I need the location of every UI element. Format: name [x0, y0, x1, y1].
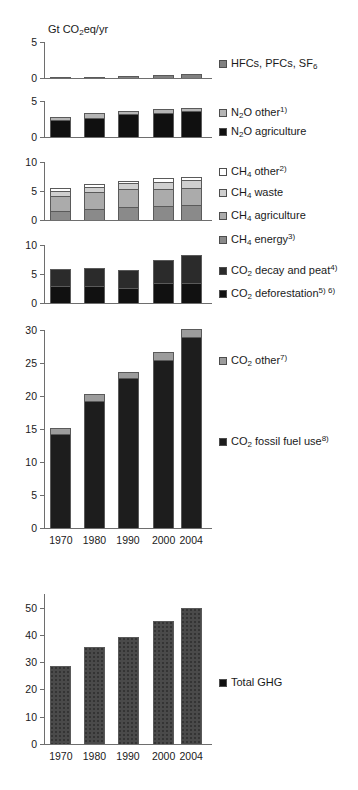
bar-1970 — [50, 42, 71, 78]
legend-label: CO2 decay and peat4) — [231, 262, 337, 280]
y-tick-label: 0 — [4, 73, 37, 84]
bar-2000 — [153, 594, 174, 744]
legend-label: CO2 other7) — [231, 352, 287, 370]
y-tick-label: 0 — [4, 523, 37, 534]
bar-segment — [50, 211, 71, 220]
bar-segment — [118, 183, 139, 189]
x-axis-line — [44, 528, 212, 529]
y-tick — [40, 162, 44, 163]
y-tick-label: 0 — [4, 739, 37, 750]
legend-label: HFCs, PFCs, SF6 — [231, 57, 317, 73]
y-tick-label: 5 — [4, 37, 37, 48]
bar-segment — [153, 75, 174, 78]
legend-label: CH4 waste — [231, 186, 283, 202]
y-tick — [40, 662, 44, 663]
y-tick — [40, 330, 44, 331]
bar-segment — [50, 188, 71, 190]
bar-segment — [153, 189, 174, 206]
x-tick-label-2004: 2004 — [172, 535, 211, 546]
bar-segment — [153, 360, 174, 528]
bar-2000 — [153, 245, 174, 303]
y-tick — [40, 191, 44, 192]
x-tick-label-2004: 2004 — [172, 751, 211, 762]
bar-2004 — [181, 42, 202, 78]
legend-item-ch4-agriculture: CH4 agriculture — [219, 209, 306, 225]
legend-label: N2O agriculture — [231, 125, 306, 141]
y-tick — [40, 245, 44, 246]
y-tick-label: 0 — [4, 215, 37, 226]
y-axis-line — [44, 101, 45, 137]
y-tick — [40, 495, 44, 496]
y-tick-label: 40 — [4, 630, 37, 641]
y-tick — [40, 101, 44, 102]
bar-1990 — [118, 42, 139, 78]
bar-1970 — [50, 162, 71, 220]
y-tick — [40, 303, 44, 304]
bar-segment — [153, 182, 174, 190]
legend-swatch-icon — [219, 168, 227, 176]
bar-segment — [84, 187, 105, 193]
legend-item-co2-deforestation-5-6: CO2 deforestation5) 6) — [219, 285, 335, 303]
y-tick-label: 30 — [4, 325, 37, 336]
bar-2000 — [153, 330, 174, 528]
bar-segment — [84, 401, 105, 528]
bar-segment — [153, 206, 174, 220]
bar-segment — [84, 286, 105, 303]
y-tick-label: 10 — [4, 157, 37, 168]
bar-segment — [118, 76, 139, 78]
bar-segment — [181, 74, 202, 78]
bar-2004 — [181, 245, 202, 303]
y-tick-label: 10 — [4, 240, 37, 251]
legend-label: CO2 deforestation5) 6) — [231, 285, 335, 303]
legend-swatch-icon — [219, 438, 227, 446]
legend-item-n2o-agriculture: N2O agriculture — [219, 125, 306, 141]
y-axis-line — [44, 42, 45, 78]
y-tick — [40, 608, 44, 609]
legend-swatch-icon — [219, 267, 227, 275]
bar-1980 — [84, 162, 105, 220]
bar-segment — [118, 637, 139, 744]
y-tick-label: 5 — [4, 490, 37, 501]
y-axis-line — [44, 162, 45, 220]
bar-1970 — [50, 594, 71, 744]
panel-co2-land: 0510 — [44, 245, 212, 329]
legend-swatch-icon — [219, 357, 227, 365]
bar-segment — [181, 329, 202, 337]
legend-label: N2O other1) — [231, 104, 287, 122]
y-tick-label: 25 — [4, 358, 37, 369]
bar-segment — [118, 111, 139, 114]
x-axis-line — [44, 303, 212, 304]
y-tick-label: 30 — [4, 657, 37, 668]
bar-segment — [153, 260, 174, 284]
bar-segment — [181, 337, 202, 528]
y-tick-label: 50 — [4, 603, 37, 614]
legend-label: Total GHG — [231, 676, 282, 688]
ghg-emissions-figure: Gt CO2eq/yr 0505051005100510152025301970… — [0, 0, 358, 790]
legend-item-total-ghg: Total GHG — [219, 676, 282, 688]
x-tick-label-1990: 1990 — [109, 535, 148, 546]
bar-segment — [118, 288, 139, 303]
bar-1970 — [50, 330, 71, 528]
y-tick — [40, 78, 44, 79]
bar-segment — [153, 178, 174, 181]
y-tick — [40, 689, 44, 690]
bar-segment — [118, 207, 139, 220]
bar-segment — [153, 621, 174, 744]
legend-item-n2o-other-1: N2O other1) — [219, 104, 287, 122]
bar-1980 — [84, 330, 105, 528]
legend-label: CH4 other2) — [231, 163, 287, 181]
bar-2004 — [181, 594, 202, 744]
y-tick — [40, 42, 44, 43]
y-tick-label: 0 — [4, 298, 37, 309]
bar-segment — [50, 666, 71, 744]
bar-segment — [84, 192, 105, 209]
y-axis-title: Gt CO2eq/yr — [48, 23, 108, 39]
bar-segment — [181, 177, 202, 180]
bar-1980 — [84, 245, 105, 303]
bar-segment — [118, 114, 139, 137]
y-tick — [40, 462, 44, 463]
legend-swatch-icon — [219, 109, 227, 117]
bar-segment — [50, 120, 71, 137]
bar-segment — [50, 196, 71, 212]
y-tick — [40, 363, 44, 364]
